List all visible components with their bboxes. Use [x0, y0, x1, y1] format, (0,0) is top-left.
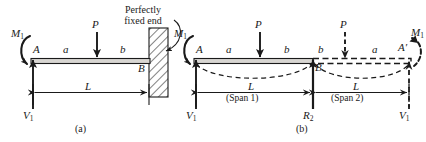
label-segment-b-span2-b: b — [318, 44, 324, 56]
label-load-b-right: P — [340, 19, 347, 31]
label-segment-b-span2-a: a — [372, 44, 378, 56]
point-load-arrow-dashed-icon-b-right — [341, 32, 348, 59]
beam-b-span2 — [313, 59, 411, 64]
label-segment-a: a — [63, 44, 69, 56]
label-span1-name: (Span 1) — [226, 94, 258, 104]
label-load-b-left: P — [255, 19, 262, 31]
label-moment-b-left: M1 — [174, 28, 187, 41]
label-span-a: L — [85, 81, 91, 93]
label-span2-name: (Span 2) — [331, 94, 363, 104]
label-segment-b: b — [120, 44, 126, 56]
label-reaction-b-right: V1 — [399, 110, 409, 123]
figure-drawing — [0, 0, 426, 142]
panel-b-group — [184, 32, 421, 109]
label-node-b-center: B — [315, 62, 322, 74]
label-load-a: P — [92, 19, 99, 31]
label-span1-length: L — [248, 81, 254, 93]
label-node-b-left: A — [196, 44, 203, 56]
deflection-curve-dashed-span1 — [196, 64, 311, 78]
label-segment-b-span1-a: a — [226, 44, 232, 56]
label-reaction-b-left: V1 — [186, 110, 196, 123]
label-moment-a: M1 — [11, 28, 24, 41]
panel-a-group — [21, 20, 180, 109]
label-center-reaction: R2 — [303, 110, 313, 123]
label-span2-length: L — [353, 81, 359, 93]
deflection-curve-dashed-span2 — [315, 64, 409, 78]
figure-root: M1 A a P b B L V1 Perfectlyfixed end (a)… — [0, 0, 426, 142]
beam-b-span1 — [194, 59, 313, 64]
caption-a: (a) — [75, 124, 86, 135]
label-reaction-a: V1 — [23, 110, 33, 123]
label-segment-b-span1-b: b — [284, 44, 290, 56]
label-node-b-right: A′ — [398, 42, 407, 54]
fixed-end-hatch-icon — [149, 28, 168, 97]
label-node-a-right: B — [138, 63, 145, 75]
label-node-a-left: A — [33, 44, 40, 56]
label-moment-b-right: M1 — [411, 27, 424, 40]
note-fixed-end: Perfectlyfixed end — [110, 4, 176, 26]
beam-a — [31, 59, 150, 64]
caption-b: (b) — [296, 124, 308, 135]
